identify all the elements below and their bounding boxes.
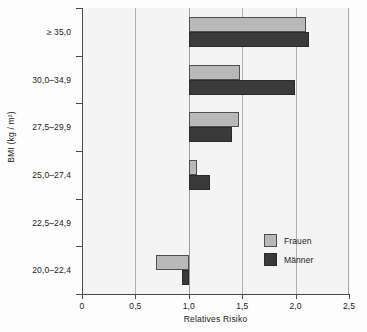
x-axis-tick: [242, 294, 243, 299]
x-axis-tick: [296, 294, 297, 299]
legend-label-maenner: Männer: [284, 255, 313, 265]
bar-frauen: [156, 255, 189, 270]
x-axis-tick-label: 2,5: [334, 301, 364, 311]
x-axis-tick-label: 1,5: [227, 301, 257, 311]
x-axis-tick-label: 0: [67, 301, 97, 311]
gridline: [242, 8, 243, 294]
y-axis-tick-label: 22,5–24,9: [32, 218, 71, 228]
y-axis-tick-label: 27,5–29,9: [32, 122, 71, 132]
gridline: [189, 8, 190, 294]
x-axis-tick-label: 1,0: [174, 301, 204, 311]
bar-maenner: [189, 80, 295, 95]
y-axis-tick-label: ≥ 35,0: [47, 27, 71, 37]
y-axis-tick: [76, 199, 82, 200]
x-axis-tick-label: 0,5: [120, 301, 150, 311]
y-axis-tick-label: 20,0–22,4: [32, 265, 71, 275]
y-axis-tick: [76, 56, 82, 57]
x-axis-title: Relatives Risiko: [82, 314, 349, 324]
bar-frauen: [189, 65, 240, 80]
x-axis-tick: [349, 294, 350, 299]
y-axis-tick: [76, 246, 82, 247]
y-axis-line: [82, 8, 83, 294]
legend-item-maenner: Männer: [264, 250, 313, 269]
gridline: [135, 8, 136, 294]
y-axis-tick: [76, 103, 82, 104]
x-axis-line: [82, 294, 350, 295]
x-axis-tick-label: 2,0: [281, 301, 311, 311]
bar-maenner: [189, 127, 232, 142]
bar-maenner: [189, 32, 310, 47]
legend-label-frauen: Frauen: [284, 236, 312, 246]
x-axis-tick: [82, 294, 83, 299]
y-axis-tick: [76, 8, 82, 9]
legend-swatch-maenner: [264, 253, 277, 266]
bar-frauen: [189, 17, 306, 32]
bar-frauen: [189, 112, 239, 127]
bar-frauen: [189, 160, 198, 175]
chart-legend: Frauen Männer: [264, 231, 313, 269]
y-axis-tick: [76, 151, 82, 152]
bar-maenner: [182, 270, 188, 285]
legend-item-frauen: Frauen: [264, 231, 313, 250]
y-axis-title: BMI (kg / m²): [6, 72, 16, 202]
legend-swatch-frauen: [264, 234, 277, 247]
bar-maenner: [189, 175, 210, 190]
x-axis-tick: [189, 294, 190, 299]
chart-figure: BMI (kg / m²) Relatives Risiko Frauen Mä…: [0, 0, 367, 332]
y-axis-tick-label: 30,0–34,9: [32, 75, 71, 85]
x-axis-tick: [135, 294, 136, 299]
y-axis-tick-label: 25,0–27,4: [32, 170, 71, 180]
y-axis-tick: [76, 294, 82, 295]
